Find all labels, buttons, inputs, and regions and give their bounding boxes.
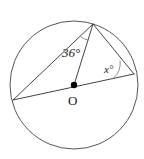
angle-arc-36: [81, 37, 89, 41]
circle-geometry-figure: 36° x° O: [0, 0, 144, 159]
angle-label-36: 36°: [61, 45, 80, 60]
chord-line-ac: [93, 24, 134, 74]
center-label-o: O: [68, 93, 77, 108]
angle-arc-x: [113, 61, 120, 79]
geometry-diagram: 36° x° O: [0, 0, 144, 159]
angle-label-x: x°: [103, 63, 114, 75]
center-point-dot: [71, 82, 77, 88]
